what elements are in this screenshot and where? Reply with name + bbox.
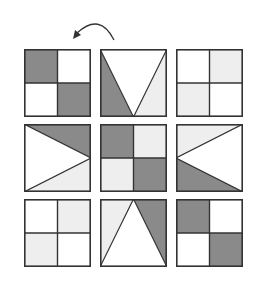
grid-cell-r1c2	[100, 49, 167, 117]
grid-cell-r3c2	[100, 199, 167, 267]
grid-cell-r3c1	[24, 199, 91, 267]
grid-cell-r2c3	[176, 124, 243, 192]
grid-cell-r2c1	[24, 124, 91, 192]
grid-cell-r1c3	[176, 49, 243, 117]
grid-cell-r3c3	[176, 199, 243, 267]
grid-cell-r1c1	[24, 49, 91, 117]
grid-cell-r2c2	[100, 124, 167, 192]
